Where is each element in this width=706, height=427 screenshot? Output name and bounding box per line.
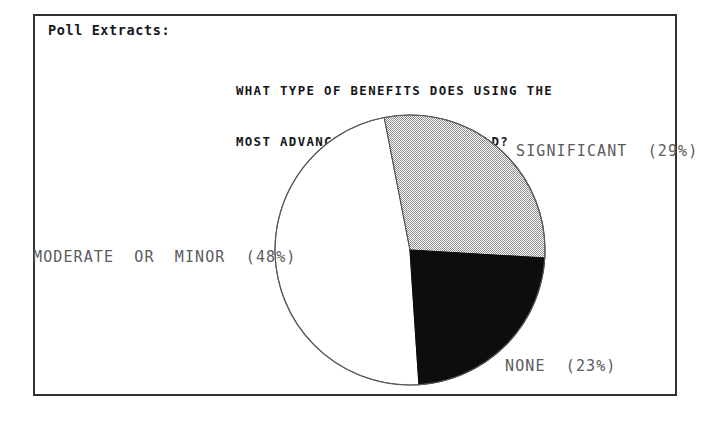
chart-title-line-2: MOST ADVANCED TECHNOLOGY YIELD? [236,133,553,150]
chart-title: WHAT TYPE OF BENEFITS DOES USING THE MOS… [236,48,553,184]
poll-extract-page: Poll Extracts: WHAT TYPE OF BENEFITS DOE… [0,0,706,427]
chart-title-line-1: WHAT TYPE OF BENEFITS DOES USING THE [236,82,553,99]
pie-label-moderate-or-minor: MODERATE OR MINOR (48%) [33,248,296,266]
pie-label-none: NONE (23%) [505,357,616,375]
poll-extracts-caption: Poll Extracts: [48,22,170,38]
pie-label-significant: SIGNIFICANT (29%) [516,142,698,160]
